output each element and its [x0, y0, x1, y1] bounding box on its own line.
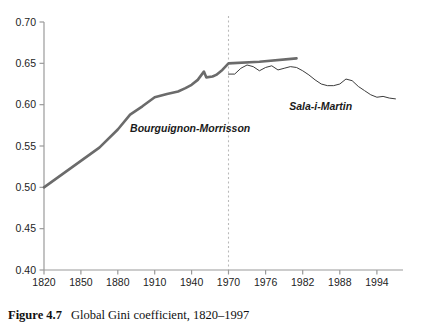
- series-annotations: Bourguignon-MorrissonSala-i-Martin: [130, 100, 352, 134]
- y-axis-tick-label: 0.55: [16, 140, 37, 152]
- annotation-label: Bourguignon-Morrisson: [130, 122, 250, 134]
- y-axis-tick-label: 0.70: [16, 16, 37, 28]
- x-axis-tick-label: 1880: [106, 276, 130, 288]
- chart-plot-area: 0.400.450.500.550.600.650.70 18201850188…: [0, 0, 435, 296]
- x-axis-tick-label: 1988: [328, 276, 352, 288]
- annotation-label: Sala-i-Martin: [289, 100, 352, 112]
- gini-line-chart: 0.400.450.500.550.600.650.70 18201850188…: [0, 0, 435, 296]
- x-axis-tick-label: 1976: [254, 276, 278, 288]
- y-axis-tick-label: 0.45: [16, 222, 37, 234]
- x-axis-tick-label: 1850: [69, 276, 93, 288]
- y-axis-tick-label: 0.40: [16, 264, 37, 276]
- caption-number: Figure 4.7: [8, 308, 62, 322]
- x-axis-tick-label: 1940: [180, 276, 204, 288]
- figure-caption: Figure 4.7Global Gini coefficient, 1820–…: [8, 308, 428, 323]
- caption-text: Global Gini coefficient, 1820–1997: [71, 308, 249, 322]
- y-axis-tick-label: 0.50: [16, 181, 37, 193]
- x-axis-tick-label: 1982: [291, 276, 315, 288]
- figure-container: 0.400.450.500.550.600.650.70 18201850188…: [0, 0, 435, 334]
- x-axis: 1820185018801910194019701976198219881994: [32, 270, 403, 288]
- x-axis-tick-label: 1994: [365, 276, 389, 288]
- x-axis-tick-label: 1970: [217, 276, 241, 288]
- y-axis: 0.400.450.500.550.600.650.70: [16, 16, 44, 276]
- x-axis-tick-label: 1820: [32, 276, 56, 288]
- x-axis-tick-label: 1910: [143, 276, 167, 288]
- series-line-sala-i-martin: [229, 65, 396, 99]
- y-axis-tick-label: 0.65: [16, 57, 37, 69]
- y-axis-tick-label: 0.60: [16, 98, 37, 110]
